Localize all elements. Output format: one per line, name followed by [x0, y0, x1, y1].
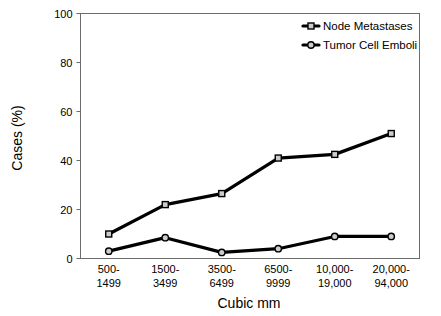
- chart-container: 020406080100 500-14991500-34993500-64996…: [0, 0, 441, 316]
- x-category-label: 19,000: [318, 277, 352, 289]
- x-category-label: 3499: [153, 277, 177, 289]
- y-tick-label: 60: [60, 106, 72, 118]
- x-category-label: 9999: [266, 277, 290, 289]
- y-tick-label: 40: [60, 155, 72, 167]
- legend-label: Node Metastases: [323, 20, 413, 32]
- x-axis-title: Cubic mm: [217, 295, 280, 311]
- x-category-label: 94,000: [374, 277, 408, 289]
- y-tick-label: 0: [66, 253, 72, 265]
- x-category-label: 500-: [98, 263, 120, 275]
- x-category-label: 6500-: [264, 263, 292, 275]
- legend-marker: [308, 23, 314, 29]
- x-category-label: 10,000-: [316, 263, 354, 275]
- series-marker: [275, 155, 281, 161]
- series-marker: [106, 231, 112, 237]
- series-marker: [219, 249, 225, 255]
- series-marker: [275, 246, 281, 252]
- y-tick-label: 100: [54, 8, 72, 20]
- y-tick-label: 20: [60, 204, 72, 216]
- x-category-label: 6499: [210, 277, 234, 289]
- series-marker: [332, 151, 338, 157]
- series-marker: [332, 233, 338, 239]
- y-axis-title: Cases (%): [9, 105, 25, 170]
- legend-label: Tumor Cell Emboli: [323, 39, 417, 51]
- series-marker: [388, 233, 394, 239]
- y-tick-label: 80: [60, 57, 72, 69]
- legend-marker: [308, 42, 314, 48]
- series-marker: [162, 202, 168, 208]
- series-marker: [106, 248, 112, 254]
- series-marker: [162, 234, 168, 240]
- series-marker: [388, 131, 394, 137]
- x-category-label: 1500-: [151, 263, 179, 275]
- line-chart: 020406080100 500-14991500-34993500-64996…: [0, 0, 441, 316]
- x-category-label: 3500-: [208, 263, 236, 275]
- series-marker: [219, 191, 225, 197]
- x-category-label: 20,000-: [373, 263, 411, 275]
- x-category-label: 1499: [97, 277, 121, 289]
